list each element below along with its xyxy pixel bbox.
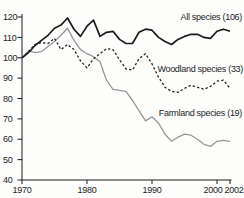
x-tick-label: 1990: [143, 185, 162, 195]
x-tick-label: 1970: [13, 185, 32, 195]
axes: [22, 14, 232, 180]
y-tick-label: 100: [3, 53, 17, 63]
y-tick-label: 50: [3, 155, 13, 165]
x-tick-label: 2002: [225, 185, 244, 195]
x-tick-label: 1980: [78, 185, 97, 195]
y-tick-label: 70: [3, 114, 13, 124]
series-label-woodland-species: Woodland species (33): [157, 64, 243, 74]
y-tick-label: 60: [3, 134, 13, 144]
y-tick-label: 40: [3, 175, 13, 185]
bird-population-index-chart: 4050607080901001101201970198019902000200…: [0, 0, 244, 198]
series-label-all-species: All species (106): [181, 12, 242, 22]
x-tick-label: 2000: [204, 185, 223, 195]
y-tick-label: 120: [3, 12, 17, 22]
line-all-species-106: [22, 18, 230, 58]
y-tick-label: 80: [3, 94, 13, 104]
series-label-farmland-species: Farmland species (19): [159, 108, 242, 118]
y-tick-label: 90: [3, 73, 13, 83]
chart-canvas: 4050607080901001101201970198019902000200…: [0, 0, 244, 198]
y-tick-label: 110: [3, 33, 17, 43]
